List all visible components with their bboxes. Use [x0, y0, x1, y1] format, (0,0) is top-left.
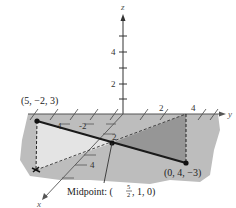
point-p2-label: (0, 4, −3)	[164, 167, 201, 179]
point-p1-label: (5, −2, 3)	[21, 95, 58, 107]
point-p2	[183, 160, 188, 165]
midpoint-label: Midpoint: ( 5 2 , 1, 0)	[67, 183, 155, 198]
z-axis-label: z	[120, 2, 125, 12]
y-tick-neg2: -2	[79, 121, 87, 131]
y-axis-label: y	[227, 109, 232, 119]
x-tick-4: 4	[90, 160, 95, 170]
z-tick-2: 2	[111, 79, 116, 89]
point-p1	[34, 118, 39, 123]
z-axis-arrow-icon	[121, 14, 126, 21]
x-axis-label: x	[36, 199, 41, 208]
y-tick-2: 2	[159, 103, 164, 113]
x-axis-arrow-icon	[42, 193, 48, 200]
midpoint-frac-denominator: 2	[127, 191, 130, 198]
z-tick-4: 4	[111, 47, 116, 57]
y-axis-arrow-icon	[219, 112, 226, 117]
midpoint-label-suffix: , 1, 0)	[132, 186, 155, 198]
midpoint-frac-numerator: 5	[127, 183, 130, 190]
midpoint-label-prefix: Midpoint: (	[67, 186, 114, 198]
midpoint-3d-diagram: z 4 2 y 2 4 -4 -2 x 2 4 (5, −2, 3) (0, 4…	[0, 0, 236, 208]
y-tick-4: 4	[191, 103, 196, 113]
